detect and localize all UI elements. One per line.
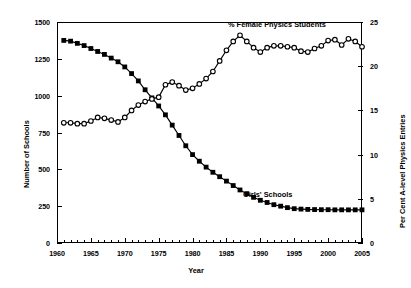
data-point	[326, 38, 331, 43]
axis-tick	[179, 240, 180, 243]
axis-tick	[247, 240, 248, 243]
y-axis-title: Number of Schools	[22, 120, 31, 188]
axis-tick	[233, 240, 234, 243]
data-point	[89, 119, 94, 124]
data-point	[299, 207, 304, 212]
data-point	[285, 44, 290, 49]
series-annotation-female-physics: % Female Physics Students	[228, 20, 326, 29]
axis-tick	[358, 243, 363, 244]
axis-tick	[321, 240, 322, 243]
data-point	[190, 152, 195, 157]
data-point	[102, 52, 107, 57]
data-point	[360, 207, 365, 212]
y2-tick-label: 15	[370, 106, 378, 115]
data-point	[82, 121, 87, 126]
axis-tick	[358, 22, 363, 23]
axis-tick	[301, 240, 302, 243]
data-point	[326, 207, 331, 212]
data-point	[102, 116, 107, 121]
data-point	[183, 143, 188, 148]
y-tick-label: 1250	[34, 54, 50, 63]
y2-tick-label: 0	[370, 239, 374, 248]
data-point	[170, 123, 175, 128]
data-point	[61, 120, 66, 125]
axis-tick	[165, 240, 166, 243]
data-point	[312, 46, 317, 51]
x-tick-label: 2000	[320, 249, 336, 258]
axis-tick	[281, 240, 282, 243]
y2-tick-label: 10	[370, 150, 378, 159]
axis-tick	[111, 240, 112, 243]
axis-tick	[186, 240, 187, 243]
axis-tick	[226, 238, 227, 243]
axis-tick	[358, 66, 363, 67]
axis-tick	[348, 240, 349, 243]
data-point	[204, 76, 209, 81]
x-tick-label: 1995	[286, 249, 302, 258]
secondary-y-axis-title: Per Cent A-level Physics Entries	[398, 114, 407, 228]
data-point	[211, 69, 216, 74]
data-point	[231, 183, 236, 188]
axis-tick	[57, 206, 62, 207]
axis-tick	[267, 240, 268, 243]
x-tick-label: 1960	[49, 249, 65, 258]
data-point	[68, 39, 73, 44]
data-point	[333, 37, 338, 42]
axis-tick	[104, 240, 105, 243]
axis-tick	[315, 240, 316, 243]
data-point	[319, 44, 324, 49]
axis-tick	[84, 240, 85, 243]
data-point	[251, 45, 256, 50]
data-point	[68, 120, 73, 125]
data-point	[183, 88, 188, 93]
axis-tick	[132, 240, 133, 243]
data-point	[305, 207, 310, 212]
axis-tick	[193, 238, 194, 243]
axis-tick	[57, 243, 62, 244]
y-tick-label: 250	[38, 202, 50, 211]
data-point	[265, 45, 270, 50]
x-tick-label: 1965	[83, 249, 99, 258]
data-point	[129, 71, 134, 76]
axis-tick	[260, 238, 261, 243]
axis-tick	[71, 240, 72, 243]
chart-container: 1960196519701975198019851990199520002005…	[0, 0, 411, 288]
data-point	[136, 79, 141, 84]
axis-tick	[274, 240, 275, 243]
x-tick-label: 1970	[117, 249, 133, 258]
data-point	[224, 48, 229, 53]
axis-tick	[145, 240, 146, 243]
data-point	[88, 46, 93, 51]
y2-tick-label: 5	[370, 194, 374, 203]
axis-tick	[77, 240, 78, 243]
data-point	[109, 56, 114, 61]
axis-tick	[328, 238, 329, 243]
data-point	[163, 112, 168, 117]
y-tick-label: 0	[46, 239, 50, 248]
data-point	[292, 206, 297, 211]
x-tick-label: 1985	[219, 249, 235, 258]
axis-tick	[355, 240, 356, 243]
data-point	[109, 118, 114, 123]
x-tick-label: 1990	[253, 249, 269, 258]
data-point	[156, 104, 161, 109]
data-point	[285, 205, 290, 210]
data-point	[217, 59, 222, 64]
data-point	[292, 45, 297, 50]
data-point	[122, 65, 127, 70]
data-point	[238, 188, 243, 193]
series-layer	[0, 0, 411, 288]
data-point	[122, 115, 127, 120]
data-point	[170, 80, 175, 85]
axis-tick	[152, 240, 153, 243]
axis-tick	[138, 240, 139, 243]
axis-tick	[125, 238, 126, 243]
axis-tick	[199, 240, 200, 243]
data-point	[75, 121, 80, 126]
data-point	[210, 170, 215, 175]
data-point	[265, 200, 270, 205]
data-point	[346, 207, 351, 212]
data-point	[143, 99, 148, 104]
axis-tick	[294, 238, 295, 243]
y-tick-label: 1500	[34, 18, 50, 27]
